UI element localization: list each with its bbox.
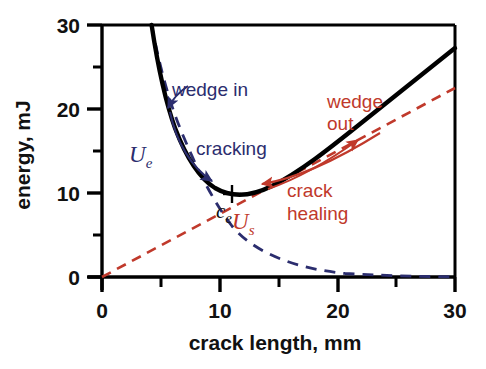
y-tick-label-10: 10 — [57, 182, 80, 205]
x-axis-title: crack length, mm — [189, 331, 362, 354]
y-tick-label-20: 20 — [57, 98, 80, 121]
x-tick-label-10: 10 — [208, 299, 231, 322]
chart-svg: 30 20 10 0 0 10 20 30 crack length, mm e… — [0, 0, 486, 369]
wedge-out-label-line2: out — [327, 113, 354, 134]
wedge-out-label-line1: wedge — [326, 91, 383, 112]
energy-vs-crack-length-chart: 30 20 10 0 0 10 20 30 crack length, mm e… — [0, 0, 486, 369]
crack-healing-label-line2: healing — [287, 203, 348, 224]
y-tick-label-30: 30 — [57, 14, 80, 37]
x-tick-label-0: 0 — [96, 299, 108, 322]
wedge-in-label: wedge in — [171, 79, 248, 100]
x-tick-label-30: 30 — [443, 299, 466, 322]
y-axis-title: energy, mJ — [11, 100, 34, 209]
crack-healing-label-line1: crack — [287, 180, 333, 201]
cracking-label: cracking — [196, 138, 267, 159]
y-tick-label-0: 0 — [68, 266, 80, 289]
x-tick-label-20: 20 — [326, 299, 349, 322]
